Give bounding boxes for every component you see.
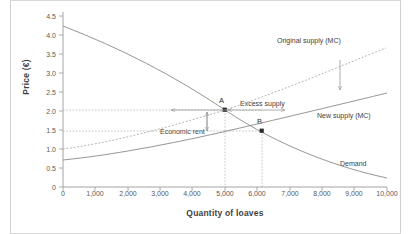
guide-lines xyxy=(63,110,262,187)
point-marker-b xyxy=(260,129,264,133)
chart-figure: Price (€) Quantity of loaves 0 0.5 1.0 1… xyxy=(0,0,415,234)
axis-lines xyxy=(63,12,387,187)
chart-canvas xyxy=(0,0,415,234)
x-axis-ticks xyxy=(63,187,387,191)
y-axis-ticks xyxy=(59,16,63,187)
curve-original-supply xyxy=(63,48,386,149)
